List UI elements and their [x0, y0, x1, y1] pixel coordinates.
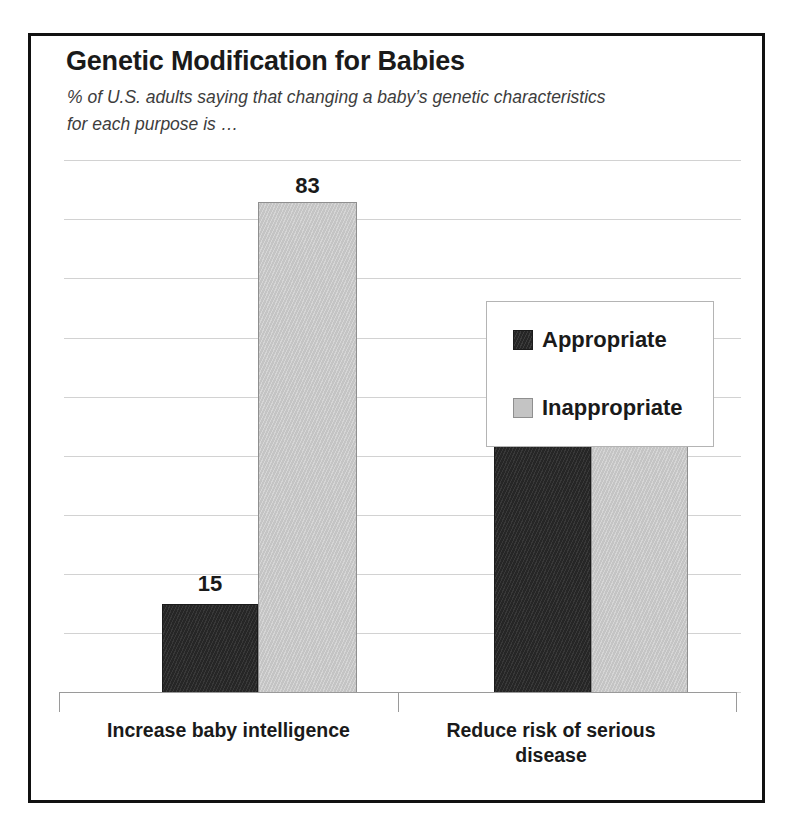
legend-item-label: Appropriate: [542, 327, 667, 353]
axis-tick-right: [736, 693, 737, 712]
gridline-80: [64, 219, 741, 220]
gridline-70: [64, 278, 741, 279]
bar-value-label-83: 83: [258, 173, 357, 199]
legend-item-appropriate[interactable]: Appropriate: [513, 327, 667, 353]
chart-frame: Genetic Modification for Babies % of U.S…: [28, 33, 765, 803]
category-label-increase-baby-intelligence: Increase baby intelligence: [59, 718, 398, 743]
bar-value-label-15: 15: [162, 571, 258, 597]
axis-tick-middle: [398, 693, 399, 712]
dark-swatch-icon: [513, 330, 533, 350]
bar-inappropriate-increase-baby-intelligence[interactable]: [258, 202, 357, 693]
legend-item-label: Inappropriate: [542, 395, 683, 421]
gridline-90: [64, 160, 741, 161]
chart-legend: Appropriate Inappropriate: [486, 301, 714, 447]
legend-item-inappropriate[interactable]: Inappropriate: [513, 395, 683, 421]
bar-appropriate-reduce-risk-of-serious-disease[interactable]: [494, 421, 591, 693]
plot-area: 15 83 46 50 Appropriate Inappropriate: [64, 160, 741, 693]
light-swatch-icon: [513, 398, 533, 418]
category-label-reduce-risk-of-serious-disease: Reduce risk of serious disease: [421, 718, 681, 768]
chart-subtitle: % of U.S. adults saying that changing a …: [67, 84, 627, 138]
axis-tick-left: [59, 693, 60, 712]
chart-title: Genetic Modification for Babies: [66, 46, 465, 77]
chart-page: Genetic Modification for Babies % of U.S…: [0, 0, 792, 832]
bar-appropriate-increase-baby-intelligence[interactable]: [162, 604, 258, 693]
